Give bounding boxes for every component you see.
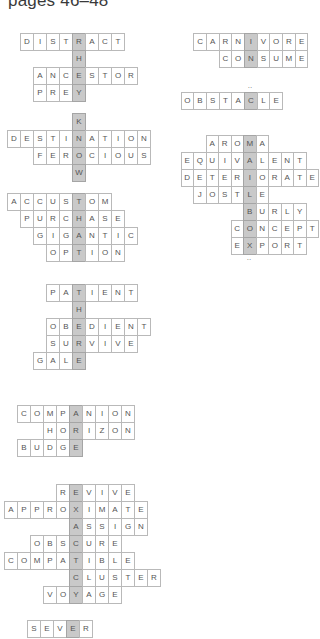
- letter-cell: E: [181, 152, 195, 170]
- letter-cell: Z: [95, 422, 109, 440]
- letter-cell: B: [193, 92, 207, 110]
- letter-cell: R: [219, 33, 233, 51]
- letter-cell: O: [85, 193, 99, 211]
- letter-cell: T: [206, 169, 220, 187]
- letter-cell: N: [46, 67, 60, 85]
- letter-cell: C: [59, 67, 73, 85]
- letter-cell: P: [59, 244, 73, 262]
- letter-cell: O: [181, 92, 195, 110]
- highlighted-letter-cell: X: [243, 237, 257, 255]
- letter-cell: I: [85, 244, 99, 262]
- letter-cell: T: [124, 284, 138, 302]
- letter-cell: I: [218, 152, 232, 170]
- letter-cell: E: [231, 237, 245, 255]
- highlighted-letter-cell: C: [244, 92, 258, 110]
- letter-cell: A: [231, 92, 245, 110]
- letter-cell: M: [43, 405, 57, 423]
- highlighted-letter-cell: R: [69, 422, 83, 440]
- letter-cell: O: [30, 405, 44, 423]
- letter-cell: U: [256, 203, 270, 221]
- letter-cell: G: [33, 352, 47, 370]
- letter-cell: C: [33, 193, 47, 211]
- letter-cell: V: [43, 586, 57, 604]
- letter-cell: S: [137, 147, 151, 165]
- letter-cell: R: [281, 237, 295, 255]
- letter-cell: U: [59, 335, 73, 353]
- highlighted-letter-cell: R: [72, 33, 86, 51]
- highlighted-letter-cell: E: [69, 439, 83, 457]
- letter-cell: D: [7, 130, 21, 148]
- highlighted-letter-cell: E: [66, 620, 80, 638]
- letter-cell: S: [82, 518, 96, 536]
- letter-cell: A: [46, 352, 60, 370]
- letter-cell: A: [206, 135, 220, 153]
- letter-cell: N: [85, 227, 99, 245]
- letter-cell: R: [46, 210, 60, 228]
- letter-cell: R: [268, 203, 282, 221]
- letter-cell: O: [56, 586, 70, 604]
- highlighted-letter-cell: Y: [69, 586, 83, 604]
- letter-cell: R: [95, 535, 109, 553]
- letter-cell: N: [134, 518, 148, 536]
- letter-cell: E: [218, 169, 232, 187]
- highlighted-letter-cell: I: [243, 169, 257, 187]
- letter-cell: P: [293, 220, 307, 238]
- letter-cell: R: [56, 484, 70, 502]
- letter-cell: P: [20, 210, 34, 228]
- letter-cell: T: [306, 220, 320, 238]
- letter-cell: E: [40, 620, 54, 638]
- letter-cell: S: [33, 130, 47, 148]
- highlighted-letter-cell: E: [72, 318, 86, 336]
- letter-cell: L: [108, 552, 122, 570]
- letter-cell: N: [231, 33, 245, 51]
- highlighted-letter-cell: X: [69, 501, 83, 519]
- letter-cell: O: [269, 33, 283, 51]
- letter-cell: B: [95, 552, 109, 570]
- letter-cell: O: [56, 422, 70, 440]
- letter-cell: T: [59, 33, 73, 51]
- letter-cell: T: [231, 186, 245, 204]
- letter-cell: E: [256, 186, 270, 204]
- letter-cell: O: [124, 130, 138, 148]
- letter-cell: T: [293, 152, 307, 170]
- letter-cell: N: [111, 284, 125, 302]
- letter-cell: R: [268, 169, 282, 187]
- letter-cell: A: [256, 135, 270, 153]
- letter-cell: L: [257, 92, 271, 110]
- letter-cell: A: [82, 586, 96, 604]
- letter-cell: E: [111, 210, 125, 228]
- letter-cell: M: [30, 552, 44, 570]
- letter-cell: Y: [293, 203, 307, 221]
- letter-cell: O: [206, 186, 220, 204]
- letter-cell: A: [281, 169, 295, 187]
- highlighted-letter-cell: I: [244, 33, 258, 51]
- letter-cell: S: [59, 193, 73, 211]
- letter-cell: E: [124, 335, 138, 353]
- letter-cell: S: [95, 518, 109, 536]
- letter-cell: C: [85, 147, 99, 165]
- highlighted-letter-cell: M: [243, 135, 257, 153]
- letter-cell: N: [281, 152, 295, 170]
- highlighted-letter-cell: H: [72, 301, 86, 319]
- letter-cell: L: [82, 569, 96, 587]
- letter-cell: I: [95, 405, 109, 423]
- highlighted-letter-cell: C: [69, 569, 83, 587]
- highlighted-letter-cell: B: [243, 203, 257, 221]
- letter-cell: O: [268, 237, 282, 255]
- letter-cell: O: [98, 244, 112, 262]
- letter-cell: B: [59, 318, 73, 336]
- letter-cell: O: [111, 147, 125, 165]
- letter-cell: U: [124, 147, 138, 165]
- letter-cell: T: [98, 227, 112, 245]
- letter-cell: R: [46, 84, 60, 102]
- letter-cell: R: [79, 620, 93, 638]
- letter-cell: E: [134, 569, 148, 587]
- highlighted-letter-cell: T: [72, 193, 86, 211]
- highlighted-letter-cell: W: [72, 164, 86, 182]
- letter-cell: I: [111, 130, 125, 148]
- letter-cell: E: [295, 50, 309, 68]
- letter-cell: E: [295, 33, 309, 51]
- letter-cell: M: [98, 193, 112, 211]
- letter-cell: E: [306, 169, 320, 187]
- letter-cell: R: [59, 147, 73, 165]
